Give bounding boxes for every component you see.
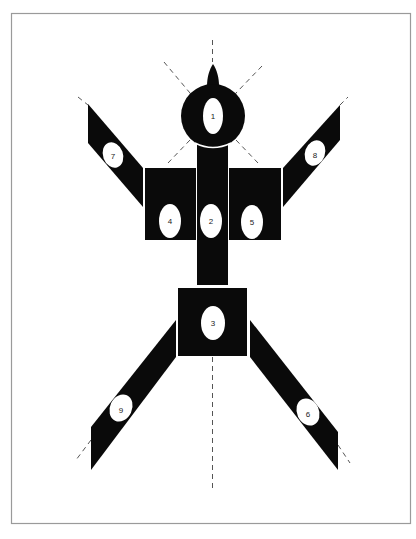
label-8: 8: [313, 151, 318, 160]
label-9: 9: [119, 406, 124, 415]
label-1: 1: [211, 112, 216, 121]
label-2: 2: [209, 217, 214, 226]
body-diagram: 1 4 2 5 3 7 8 9 6: [0, 0, 416, 539]
label-4: 4: [168, 217, 173, 226]
label-6: 6: [306, 410, 311, 419]
label-3: 3: [211, 319, 216, 328]
label-7: 7: [111, 152, 116, 161]
label-5: 5: [250, 218, 255, 227]
